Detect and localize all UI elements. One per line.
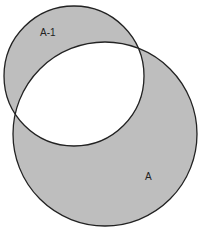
symmetric-difference-region — [4, 6, 197, 226]
label-a: A — [145, 171, 152, 182]
venn-diagram: A-1 A — [0, 0, 205, 233]
label-a-minus-1: A-1 — [40, 27, 56, 38]
